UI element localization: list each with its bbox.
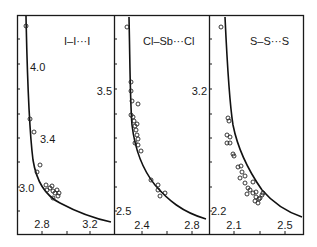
y-label-3-2: 3.2 bbox=[192, 85, 207, 97]
y-label-4-0: 4.0 bbox=[30, 61, 45, 73]
x-label-2-5: 2.5 bbox=[277, 219, 292, 231]
y-label-3-4: 3.4 bbox=[40, 133, 55, 145]
data-points bbox=[24, 24, 265, 205]
y-label-2-2: 2.2 bbox=[211, 205, 226, 217]
figure: I–I···I Cl–Sb···Cl S–S···S 4.0 3.4 3.0 3… bbox=[0, 0, 317, 247]
y-label-3-5: 3.5 bbox=[97, 85, 112, 97]
curve-panel-2 bbox=[129, 17, 206, 219]
x-label-2-8b: 2.8 bbox=[184, 219, 199, 231]
x-label-2-4: 2.4 bbox=[134, 219, 149, 231]
axis-ticks bbox=[17, 39, 285, 234]
panel-label-3: S–S···S bbox=[250, 35, 289, 47]
y-label-2-5: 2.5 bbox=[116, 205, 131, 217]
x-label-3-2: 3.2 bbox=[82, 218, 97, 230]
y-label-3-0: 3.0 bbox=[19, 182, 34, 194]
x-label-2-1: 2.1 bbox=[226, 219, 241, 231]
plot-frame bbox=[18, 16, 304, 235]
panel-label-1: I–I···I bbox=[64, 35, 90, 47]
panel-label-2: Cl–Sb···Cl bbox=[143, 35, 194, 47]
curve-panel-3 bbox=[225, 17, 302, 217]
x-label-2-8a: 2.8 bbox=[34, 218, 49, 230]
